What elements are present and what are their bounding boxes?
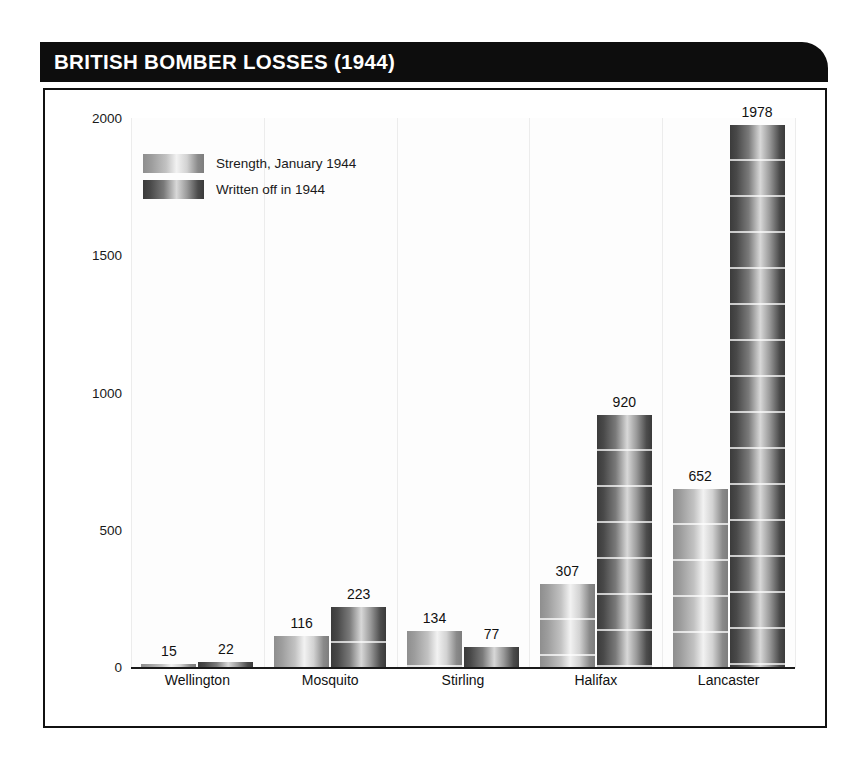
x-axis-category-label: Wellington	[131, 672, 264, 688]
y-axis-tick-label: 500	[99, 522, 122, 537]
y-axis-tick-label: 2000	[92, 111, 122, 126]
bar-lancaster-strength[interactable]: 652	[673, 118, 728, 668]
bar-lancaster-written-off[interactable]: 1978	[730, 118, 785, 668]
bar-stripe-overlay	[597, 415, 652, 668]
bar-stirling-written-off[interactable]: 77	[464, 118, 519, 668]
grid-line-vertical	[662, 118, 663, 668]
x-axis-category-label: Halifax	[529, 672, 662, 688]
grid-line-vertical	[397, 118, 398, 668]
bar-stripe-overlay	[673, 489, 728, 668]
bar-value-label: 22	[218, 641, 234, 657]
legend-label: Strength, January 1944	[216, 156, 356, 171]
legend-swatch-icon	[143, 180, 204, 199]
bar-value-label: 1978	[742, 104, 773, 120]
bar-rect	[407, 631, 462, 668]
grid-line-vertical	[529, 118, 530, 668]
bar-value-label: 77	[484, 626, 500, 642]
bar-rect	[540, 584, 595, 668]
legend-item[interactable]: Written off in 1944	[143, 178, 356, 200]
bar-stripe-overlay	[407, 631, 462, 668]
y-axis-tick-label: 0	[114, 660, 122, 675]
bar-rect	[331, 607, 386, 668]
x-axis-category-label: Lancaster	[662, 672, 795, 688]
bar-stripe-overlay	[274, 636, 329, 668]
bar-rect	[597, 415, 652, 668]
bar-stripe-overlay	[331, 607, 386, 668]
grid-line-vertical	[131, 118, 132, 668]
bar-rect	[464, 647, 519, 668]
y-axis: 0500100015002000	[60, 0, 122, 768]
bar-value-label: 652	[688, 468, 711, 484]
x-axis-category-label: Mosquito	[264, 672, 397, 688]
bar-halifax-written-off[interactable]: 920	[597, 118, 652, 668]
y-axis-tick-label: 1000	[92, 385, 122, 400]
legend-swatch-icon	[143, 154, 204, 173]
bar-rect	[274, 636, 329, 668]
bar-stripe-overlay	[464, 647, 519, 668]
x-axis-baseline	[131, 667, 795, 669]
bar-value-label: 134	[423, 610, 446, 626]
y-axis-tick-label: 1500	[92, 248, 122, 263]
bar-value-label: 116	[291, 615, 313, 631]
grid-line-vertical	[795, 118, 796, 668]
chart-legend: Strength, January 1944Written off in 194…	[143, 152, 356, 204]
bar-value-label: 307	[556, 563, 579, 579]
bar-stirling-strength[interactable]: 134	[407, 118, 462, 668]
bar-rect	[673, 489, 728, 668]
bar-stripe-overlay	[730, 125, 785, 668]
bar-value-label: 223	[347, 586, 370, 602]
bar-rect	[730, 125, 785, 668]
chart-figure: BRITISH BOMBER LOSSES (1944) 05001000150…	[0, 0, 852, 768]
chart-title-bar: BRITISH BOMBER LOSSES (1944)	[40, 42, 828, 82]
bar-stripe-overlay	[540, 584, 595, 668]
bar-halifax-strength[interactable]: 307	[540, 118, 595, 668]
bar-value-label: 920	[613, 394, 636, 410]
legend-item[interactable]: Strength, January 1944	[143, 152, 356, 174]
bar-value-label: 15	[161, 643, 177, 659]
x-axis-category-label: Stirling	[397, 672, 530, 688]
legend-label: Written off in 1944	[216, 182, 325, 197]
